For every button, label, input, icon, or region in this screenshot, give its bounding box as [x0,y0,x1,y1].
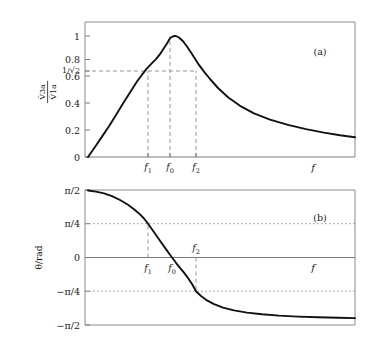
panel-b-ytick-neg-pi-over-4: −π/4 [57,286,80,297]
panel-b-ytick-neg-pi-over-2: −π/2 [57,320,80,331]
panel-a-ytick-1: 1 [74,31,80,42]
panel-a-y-axis-numerator: Ṽ3a [38,84,47,101]
panel-b-xtick-f2: f2 [191,242,200,256]
panel-a-tag: (a) [313,46,326,57]
panel-b-xtick-f1: f1 [143,262,152,276]
panel-a-ytick-04: 0.4 [65,98,80,109]
panel-a-ytick-invsqrt2: 1/√2 [62,66,80,75]
panel-a-y-axis-label: Ṽ3a Ṽ1a [38,81,59,103]
panel-a-svg: 0 0.2 0.4 0.6 1/√2 0.8 1 Ṽ3a Ṽ1a [0,0,374,178]
panel-b-ytick-pi-over-2: π/2 [65,185,81,196]
panel-b-ytick-0: 0 [74,252,80,263]
panel-b-ytick-pi-over-4: π/4 [65,218,81,229]
panel-a-magnitude: 0 0.2 0.4 0.6 1/√2 0.8 1 Ṽ3a Ṽ1a [0,0,374,178]
panel-b-y-axis-label: θ/rad [34,245,44,269]
panel-a-ytick-08: 0.8 [65,54,80,65]
panel-b-svg: π/2 π/4 0 −π/4 −π/2 θ/rad f1 f0 f2 f (b) [0,175,374,343]
panel-a-ytick-02: 0.2 [65,125,80,136]
panel-b-x-axis-label: f [310,262,317,273]
panel-a-y-ticks [85,36,90,157]
panel-a-x-ticks [148,153,196,157]
panel-a-ytick-0: 0 [74,152,80,163]
panel-a-xtick-f0: f0 [165,161,174,175]
panel-a-x-axis-label: f [310,162,317,173]
panel-b-y-ticks [85,190,90,325]
panel-b-tag: (b) [313,212,327,223]
panel-b-phase: π/2 π/4 0 −π/4 −π/2 θ/rad f1 f0 f2 f (b) [0,175,374,343]
panel-b-xtick-f0: f0 [167,262,176,276]
panel-a-xtick-f1: f1 [143,161,152,175]
panel-a-y-axis-denominator: Ṽ1a [49,84,58,101]
resonance-response-figure: 0 0.2 0.4 0.6 1/√2 0.8 1 Ṽ3a Ṽ1a [0,0,374,343]
panel-a-xtick-f2: f2 [191,161,200,175]
panel-b-phase-curve [88,191,355,319]
